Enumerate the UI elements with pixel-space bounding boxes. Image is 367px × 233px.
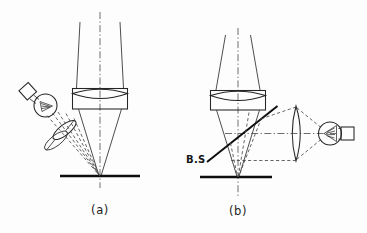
panel-a: (a) <box>19 12 140 217</box>
imaging-ray-b-lower-left <box>217 110 238 177</box>
imaging-ray-a-lower-left <box>79 109 100 176</box>
panel-b-caption: (b) <box>229 204 247 218</box>
imaging-ray-a-lower-right <box>101 109 122 176</box>
optical-diagram: (a) B.S <box>0 0 367 233</box>
imaging-ray-b-upper-right <box>251 35 261 90</box>
illum-ray-b-down-mid <box>238 113 249 178</box>
lamp-bulb-a <box>34 94 57 117</box>
lamp-base-a <box>19 82 37 100</box>
panel-b: B.S <box>186 28 354 218</box>
imaging-ray-b-lower-right <box>239 110 260 177</box>
illum-ray-a-1 <box>47 116 100 176</box>
imaging-ray-a-upper-left <box>77 22 81 88</box>
panel-a-caption: (a) <box>91 203 109 217</box>
illum-ray-a-3 <box>58 112 100 176</box>
beam-splitter-label: B.S <box>186 154 206 165</box>
lamp-base-b <box>341 127 354 140</box>
imaging-ray-b-upper-left <box>216 35 226 90</box>
illum-ray-b-bs-upper <box>262 107 296 119</box>
figure-container: (a) B.S <box>0 0 367 233</box>
imaging-ray-a-upper-right <box>120 22 124 88</box>
